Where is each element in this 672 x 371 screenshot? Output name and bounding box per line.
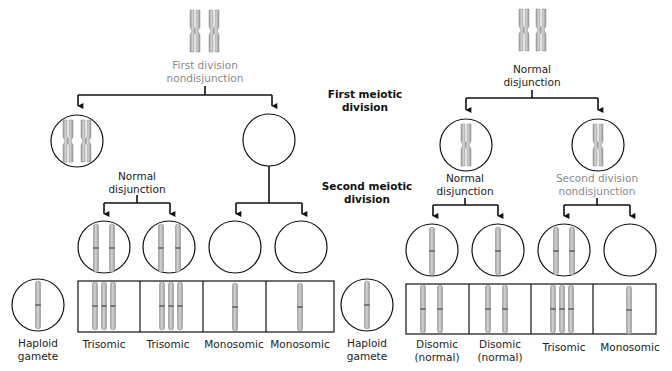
gamete-disomic — [78, 221, 130, 273]
first-division-bracket — [466, 90, 598, 110]
label-line: Disomic — [415, 338, 460, 351]
zygote-label: Trisomic — [543, 341, 586, 354]
second-division-bracket-right — [236, 166, 302, 214]
stage-label-line: division — [328, 101, 403, 114]
label-line: Normal — [436, 172, 493, 185]
stage-label-first-meiotic-division: First meiotic division — [328, 88, 403, 113]
gamete-nullisomic — [209, 221, 261, 273]
zygote-box-row — [78, 281, 334, 332]
second-division-bracket-right — [564, 198, 630, 216]
top-chromosome-pair-icon — [190, 10, 219, 52]
label-haploid-gamete: Haploid gamete — [347, 337, 387, 362]
label-haploid-gamete: Haploid gamete — [18, 337, 58, 362]
label-line: gamete — [18, 350, 58, 363]
cell-two-chromosomes — [51, 115, 103, 167]
second-division-bracket-left — [104, 195, 170, 214]
label-line: nondisjunction — [167, 72, 244, 85]
label-line: disjunction — [503, 76, 560, 89]
label-line: Normal — [108, 170, 165, 183]
first-division-bracket — [78, 86, 272, 106]
label-line: Disomic — [478, 338, 523, 351]
label-line: Monosomic — [204, 338, 263, 351]
zygote-label: Disomic (normal) — [478, 338, 523, 363]
gamete-disomic — [538, 224, 590, 276]
label-line: Second division — [556, 172, 638, 185]
label-line: Trisomic — [147, 338, 190, 351]
label-line: Haploid — [18, 337, 58, 350]
gamete-nullisomic — [275, 221, 327, 273]
label-line: nondisjunction — [556, 185, 638, 198]
meiotic-nondisjunction-diagram: First meiotic division Second meiotic di… — [0, 0, 672, 371]
label-line: Haploid — [347, 337, 387, 350]
zygote-label: Monosomic — [600, 341, 659, 354]
label-first-division-nondisjunction: First division nondisjunction — [167, 59, 244, 84]
second-division-bracket-left — [433, 198, 498, 216]
label-line: gamete — [347, 350, 387, 363]
label-line: Trisomic — [543, 341, 586, 354]
label-line: First division — [167, 59, 244, 72]
top-chromosome-pair-icon — [519, 9, 546, 51]
label-normal-disjunction: Normal disjunction — [108, 170, 165, 195]
label-normal-disjunction-top: Normal disjunction — [503, 63, 560, 88]
label-line: (normal) — [415, 351, 460, 364]
zygote-label: Trisomic — [83, 338, 126, 351]
stage-label-second-meiotic-division: Second meiotic division — [322, 180, 413, 205]
label-second-division-nondisjunction: Second division nondisjunction — [556, 172, 638, 197]
zygote-label: Monosomic — [204, 338, 263, 351]
zygote-label: Monosomic — [270, 338, 329, 351]
zygote-label: Disomic (normal) — [415, 338, 460, 363]
label-line: Trisomic — [83, 338, 126, 351]
label-line: disjunction — [436, 185, 493, 198]
label-line: disjunction — [108, 183, 165, 196]
label-line: (normal) — [478, 351, 523, 364]
label-line: Normal — [503, 63, 560, 76]
label-normal-disjunction: Normal disjunction — [436, 172, 493, 197]
label-line: Monosomic — [600, 341, 659, 354]
zygote-box-row — [406, 284, 656, 334]
stage-label-line: division — [322, 193, 413, 206]
label-line: Monosomic — [270, 338, 329, 351]
gamete-disomic — [143, 221, 195, 273]
zygote-label: Trisomic — [147, 338, 190, 351]
stage-label-line: Second meiotic — [322, 180, 413, 193]
stage-label-line: First meiotic — [328, 88, 403, 101]
cell-empty — [243, 114, 295, 166]
gamete-nullisomic — [604, 224, 656, 276]
